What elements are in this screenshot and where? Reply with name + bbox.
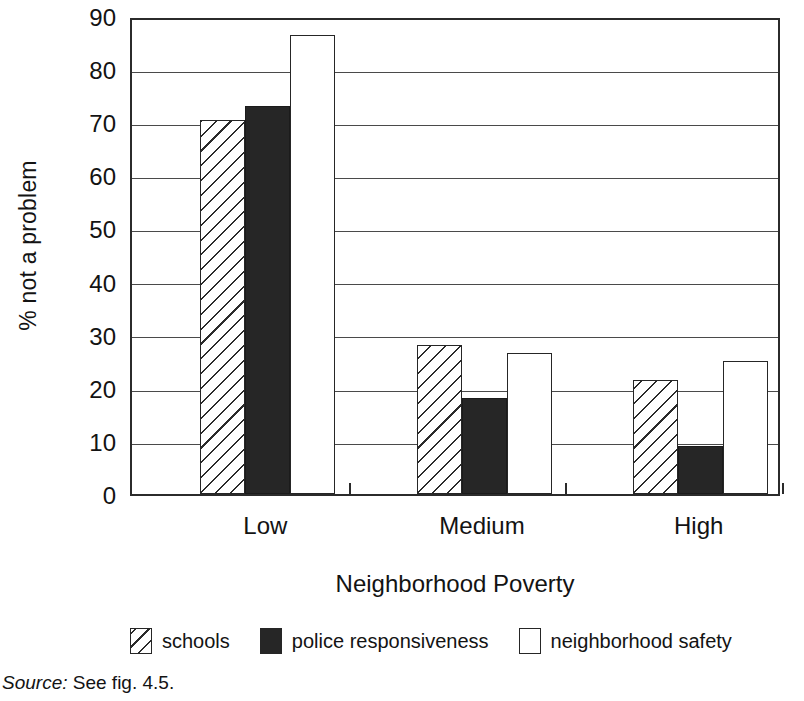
y-axis-tick-label: 30	[58, 325, 116, 349]
hatch-pattern	[131, 629, 151, 653]
source-note: Source: See fig. 4.5.	[2, 672, 174, 694]
chart-legend: schoolspolice responsivenessneighborhood…	[130, 628, 790, 654]
legend-swatch	[130, 628, 152, 654]
x-axis-category-label: Medium	[382, 512, 582, 540]
x-axis-tick-mark	[565, 483, 567, 494]
bar	[417, 345, 462, 494]
x-axis-category-label: Low	[165, 512, 365, 540]
gridline	[132, 72, 778, 73]
legend-label: neighborhood safety	[551, 630, 732, 653]
y-axis-tick-label: 70	[58, 112, 116, 136]
x-axis-label: Neighborhood Poverty	[130, 570, 780, 598]
x-axis-tick-mark	[349, 483, 351, 494]
y-axis-tick-label: 50	[58, 218, 116, 242]
x-axis-category-label: High	[599, 512, 799, 540]
y-axis-tick-label: 80	[58, 59, 116, 83]
bar	[200, 120, 245, 494]
hatch-pattern	[418, 346, 461, 493]
y-axis-tick-label: 60	[58, 165, 116, 189]
plot-area	[130, 18, 780, 496]
y-axis-tick-label: 0	[58, 484, 116, 508]
source-note-text: See fig. 4.5.	[73, 672, 174, 693]
bar	[678, 446, 723, 494]
bar	[462, 398, 507, 494]
legend-label: schools	[162, 630, 230, 653]
figure-bar-chart: % not a problem 0102030405060708090 LowM…	[0, 0, 804, 701]
source-note-label: Source:	[2, 672, 67, 693]
hatch-pattern	[201, 121, 244, 493]
x-axis-tick-mark	[782, 483, 784, 494]
legend-label: police responsiveness	[292, 630, 489, 653]
bar	[507, 353, 552, 494]
bar	[633, 380, 678, 494]
y-axis-tick-label: 20	[58, 378, 116, 402]
y-axis-tick-label: 90	[58, 6, 116, 30]
y-axis-tick-label: 40	[58, 272, 116, 296]
bar	[723, 361, 768, 494]
legend-swatch	[260, 628, 282, 654]
bar	[290, 35, 335, 494]
hatch-pattern	[634, 381, 677, 493]
bar	[245, 106, 290, 494]
legend-item: schools	[130, 628, 230, 654]
legend-item: police responsiveness	[260, 628, 489, 654]
legend-item: neighborhood safety	[519, 628, 732, 654]
legend-swatch	[519, 628, 541, 654]
y-axis-tick-label: 10	[58, 431, 116, 455]
